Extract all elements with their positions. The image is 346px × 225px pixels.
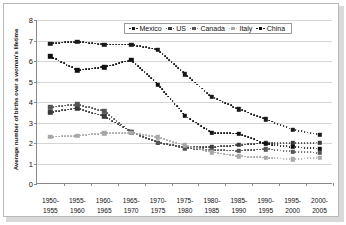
legend-marker-icon xyxy=(165,27,176,31)
series-dot xyxy=(106,65,108,67)
series-dot xyxy=(68,65,70,67)
legend-item-italy[interactable]: Italy xyxy=(228,25,255,32)
series-dot xyxy=(301,147,303,149)
series-dot xyxy=(63,62,65,64)
series-dot xyxy=(203,127,205,129)
series-dot xyxy=(192,120,194,122)
series-dot xyxy=(232,133,234,135)
data-point xyxy=(290,145,294,149)
series-dot xyxy=(66,64,68,66)
data-point xyxy=(129,58,133,62)
y-tick-label: 6 xyxy=(20,57,33,66)
legend-label: Italy xyxy=(239,25,252,32)
data-point xyxy=(156,82,160,86)
series-dot xyxy=(189,118,191,120)
series-dot xyxy=(112,64,114,66)
x-tick-mark xyxy=(172,183,173,186)
legend-marker-icon xyxy=(228,27,239,31)
series-dot xyxy=(286,146,288,148)
chart-content: Average number of births over a woman's … xyxy=(0,0,346,225)
series-dot xyxy=(283,145,285,147)
data-point xyxy=(75,68,79,72)
x-tick-mark xyxy=(118,183,119,186)
series-dot xyxy=(88,68,90,70)
legend-label: US xyxy=(176,25,186,32)
legend-marker-icon xyxy=(255,27,266,31)
series-dot xyxy=(195,122,197,124)
series-dot xyxy=(206,128,208,130)
chart-figure: Average number of births over a woman's … xyxy=(0,0,346,225)
data-point xyxy=(264,142,268,146)
x-tick-mark xyxy=(198,183,199,186)
chart-legend: MexicoUSCanadaItalyChina xyxy=(124,23,292,34)
series-dot xyxy=(118,62,120,64)
series-dot xyxy=(223,132,225,134)
y-tick-label: 4 xyxy=(20,98,33,107)
series-dot xyxy=(310,147,312,149)
y-tick-label: 7 xyxy=(20,36,33,45)
series-dot xyxy=(244,135,246,137)
series-dot xyxy=(115,63,117,65)
series-dot xyxy=(229,133,231,135)
series-china xyxy=(37,20,332,183)
data-point xyxy=(48,54,52,58)
legend-item-canada[interactable]: Canada xyxy=(189,25,228,32)
y-tick-label: 3 xyxy=(20,118,33,127)
x-tick-mark xyxy=(91,183,92,186)
legend-label: China xyxy=(267,25,285,32)
series-dot xyxy=(304,147,306,149)
series-dot xyxy=(214,132,216,134)
data-point xyxy=(317,147,321,151)
series-dot xyxy=(217,132,219,134)
legend-label: Canada xyxy=(200,25,225,32)
series-dot xyxy=(60,61,62,63)
series-dot xyxy=(82,69,84,71)
x-tick-mark xyxy=(252,183,253,186)
series-dot xyxy=(250,137,252,139)
series-dot xyxy=(268,143,270,145)
x-tick-mark xyxy=(64,183,65,186)
series-dot xyxy=(91,68,93,70)
series-dot xyxy=(277,144,279,146)
y-tick-mark xyxy=(34,184,37,185)
series-dot xyxy=(161,88,163,90)
series-dot xyxy=(220,132,222,134)
series-dot xyxy=(124,61,126,63)
series-dot xyxy=(259,141,261,143)
series-dot xyxy=(198,123,200,125)
plot-area: 012345678 1950-19551955-19601960-1965196… xyxy=(36,20,332,184)
series-dot xyxy=(55,58,57,60)
data-point xyxy=(102,65,106,69)
series-dot xyxy=(85,68,87,70)
legend-item-china[interactable]: China xyxy=(255,25,288,32)
x-tick-mark xyxy=(225,183,226,186)
series-dot xyxy=(121,61,123,63)
series-dot xyxy=(280,145,282,147)
x-tick-label: 2000-2005 xyxy=(303,196,337,215)
series-dot xyxy=(295,146,297,148)
series-dot xyxy=(253,139,255,141)
series-dot xyxy=(307,147,309,149)
series-dot xyxy=(200,125,202,127)
x-tick-mark xyxy=(306,183,307,186)
series-dot xyxy=(226,132,228,134)
data-point xyxy=(210,131,214,135)
data-point xyxy=(237,132,241,136)
series-dot xyxy=(178,108,180,110)
x-tick-mark xyxy=(145,183,146,186)
legend-item-us[interactable]: US xyxy=(165,25,189,32)
legend-item-mexico[interactable]: Mexico xyxy=(128,25,165,32)
legend-marker-icon xyxy=(189,27,200,31)
series-dot xyxy=(271,144,273,146)
series-dot xyxy=(256,140,258,142)
series-dot xyxy=(79,69,81,71)
x-tick-mark xyxy=(279,183,280,186)
y-tick-label: 5 xyxy=(20,77,33,86)
series-dot xyxy=(241,134,243,136)
series-dot xyxy=(97,67,99,69)
y-tick-label: 1 xyxy=(20,159,33,168)
series-dot xyxy=(298,147,300,149)
y-axis-title: Average number of births over a woman's … xyxy=(12,15,19,185)
series-dot xyxy=(58,60,60,62)
series-dot xyxy=(313,147,315,149)
